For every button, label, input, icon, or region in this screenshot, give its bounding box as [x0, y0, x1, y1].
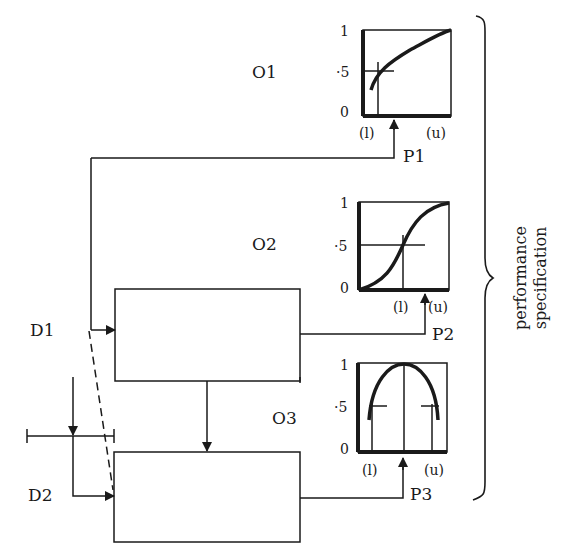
o2-xlabel-u: (u)	[428, 299, 448, 315]
plot-o2	[359, 202, 449, 290]
diagram-canvas: O1 1 ·5 0 (l) (u) P1 O2 1 ·5 0 (l) (u) P…	[0, 0, 583, 558]
label-o2: O2	[252, 234, 277, 254]
label-d2: D2	[28, 485, 52, 505]
process-box-2	[114, 452, 300, 542]
label-p2: P2	[432, 324, 454, 344]
o3-xlabel-l: (l)	[362, 462, 377, 478]
brace-label-line2: specification	[531, 227, 550, 330]
o3-tick-05: ·5	[334, 399, 347, 415]
process-box-1	[115, 289, 300, 381]
o3-tick-1: 1	[340, 357, 349, 373]
o1-tick-0: 0	[340, 104, 349, 120]
o3-xlabel-u: (u)	[424, 462, 444, 478]
o1-xlabel-l: (l)	[359, 125, 374, 141]
brace	[473, 16, 493, 500]
label-p1: P1	[403, 146, 425, 166]
plot-o1	[363, 30, 451, 116]
label-o3: O3	[272, 408, 297, 428]
brace-label-line1: performance	[511, 226, 530, 330]
o1-xlabel-u: (u)	[426, 125, 446, 141]
o1-tick-1: 1	[340, 23, 349, 39]
o2-tick-05: ·5	[334, 238, 347, 254]
p1-feedback-line	[91, 120, 394, 330]
diagram: O1 1 ·5 0 (l) (u) P1 O2 1 ·5 0 (l) (u) P…	[0, 0, 583, 558]
label-d1: D1	[30, 320, 54, 340]
o2-xlabel-l: (l)	[393, 299, 408, 315]
o2-tick-1: 1	[340, 195, 349, 211]
o2-tick-0: 0	[340, 280, 349, 296]
label-p3: P3	[410, 484, 432, 504]
o3-tick-0: 0	[340, 441, 349, 457]
plot-o3	[358, 363, 447, 452]
label-o1: O1	[252, 62, 277, 82]
o1-tick-05: ·5	[336, 64, 349, 80]
